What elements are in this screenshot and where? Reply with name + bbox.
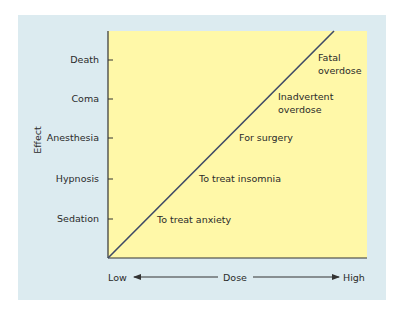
annotation-inadvertent-line2: overdose xyxy=(278,104,322,115)
tick-label-hypnosis: Hypnosis xyxy=(56,173,99,184)
tick-label-death: Death xyxy=(70,54,99,65)
annotation-fatal-line1: Fatal xyxy=(318,52,341,63)
tick-label-coma: Coma xyxy=(71,93,99,104)
dose-effect-diagram: Death Coma Anesthesia Hypnosis Sedation … xyxy=(0,0,403,312)
annotation-insomnia: To treat insomnia xyxy=(198,173,281,184)
x-label-low: Low xyxy=(108,272,127,283)
annotation-anxiety: To treat anxiety xyxy=(156,214,232,225)
x-label-high: High xyxy=(343,272,365,283)
annotation-inadvertent-line1: Inadvertent xyxy=(278,91,334,102)
y-axis-title: Effect xyxy=(32,126,43,154)
annotation-fatal-line2: overdose xyxy=(318,65,362,76)
tick-label-anesthesia: Anesthesia xyxy=(47,132,99,143)
annotation-surgery: For surgery xyxy=(239,132,293,143)
x-label-dose: Dose xyxy=(223,272,247,283)
tick-label-sedation: Sedation xyxy=(57,213,99,224)
